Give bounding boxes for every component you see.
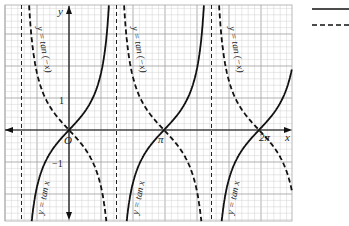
x-axis-label: x xyxy=(284,131,290,143)
legend xyxy=(312,9,349,25)
tick-label-1: 1 xyxy=(59,95,64,106)
y-axis-arrow-up-icon xyxy=(66,6,72,14)
x-axis-arrow-left-icon xyxy=(5,127,13,133)
y-axis-arrow-down-icon xyxy=(66,212,72,220)
origin-label: O xyxy=(64,134,72,146)
tick-label-pi: π xyxy=(158,133,164,145)
y-axis-label: y xyxy=(57,5,63,17)
tick-label-neg1: −1 xyxy=(52,158,63,169)
tangent-graph: y x O π 2π 1 −1 y = tan (−x) y = tan (−x… xyxy=(0,0,349,226)
tick-label-2pi: 2π xyxy=(259,131,271,143)
